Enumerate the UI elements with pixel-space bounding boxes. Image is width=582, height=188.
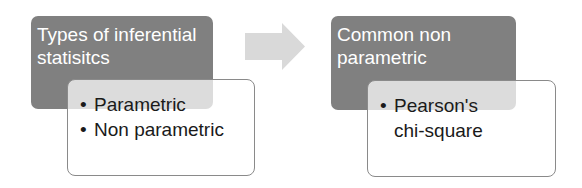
step-1-list: •Parametric •Non parametric [80,92,246,142]
right-arrow-icon [245,23,305,70]
step-2-title: Common non parametric [337,24,451,68]
list-item: •Parametric [80,92,246,117]
step-1-detail-box: •Parametric •Non parametric [67,79,255,176]
step-1-title: Types of inferential statisitcs [37,24,196,68]
bullet-icon: • [380,93,387,118]
step-2-detail-box: •Pearson's chi-square [367,80,556,177]
bullet-icon: • [80,92,87,117]
list-item: •Pearson's chi-square [380,93,509,143]
step-2-list: •Pearson's chi-square [380,93,547,143]
list-item: •Non parametric [80,117,246,142]
bullet-icon: • [80,117,87,142]
